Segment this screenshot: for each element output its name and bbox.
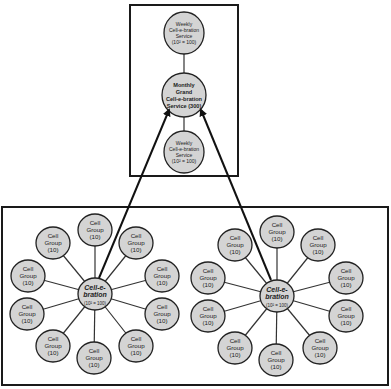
service-label: Cell-e-bration [169, 146, 199, 152]
service-label: Weekly [176, 140, 193, 146]
cell-group-label: Cell [230, 234, 241, 241]
cell-group-label: Cell [157, 303, 168, 310]
cell-group-label: (10) [156, 279, 167, 286]
cell-group-label: Group [19, 272, 37, 279]
cell-group-label: (10) [271, 235, 282, 242]
cell-group-label: Cell [22, 303, 33, 310]
service-node-weekly-top: WeeklyCell-e-brationService(10² = 100) [164, 12, 204, 54]
cell-group-label: (10) [314, 351, 325, 358]
cell-group-node: CellGroup(10) [329, 300, 363, 332]
cell-group-label: (10) [89, 233, 100, 240]
hub-title: bration [83, 291, 107, 298]
nodes-layer: WeeklyCell-e-brationService(10² = 100)Mo… [10, 12, 363, 376]
cell-group-label: Cell [131, 232, 142, 239]
cell-group-node: CellGroup(10) [191, 300, 225, 332]
hub-subtitle: (10² = 100) [266, 303, 289, 308]
cell-group-node: CellGroup(10) [329, 262, 363, 294]
cell-group-label: Cell [23, 265, 34, 272]
cell-group-label: (10) [130, 246, 141, 253]
hub-subtitle: (10² = 100) [84, 301, 107, 306]
cell-group-label: (10) [312, 248, 323, 255]
hub-title: bration [265, 293, 289, 300]
cell-group-label: Group [226, 241, 244, 248]
service-label: Cell-e-bration [166, 96, 203, 102]
cell-group-node: CellGroup(10) [218, 332, 252, 364]
cell-group-node: CellGroup(10) [303, 332, 337, 364]
hub-title: Cell-e- [84, 284, 106, 291]
cell-group-label: Group [311, 344, 329, 351]
cell-group-label: (10) [270, 363, 281, 370]
cell-group-label: Cell [157, 265, 168, 272]
cell-group-label: Cell [203, 267, 214, 274]
cell-celebration-diagram: WeeklyCell-e-brationService(10² = 100)Mo… [0, 0, 391, 389]
cell-group-node: CellGroup(10) [10, 298, 44, 330]
celebration-hub-left: Cell-e-bration(10² = 100) [78, 278, 112, 310]
cell-group-label: Cell [271, 349, 282, 356]
cell-group-label: Group [226, 344, 244, 351]
cell-group-label: (10) [130, 349, 141, 356]
cell-group-label: Cell [89, 347, 100, 354]
cell-group-node: CellGroup(10) [119, 330, 153, 362]
cell-group-label: (10) [88, 361, 99, 368]
service-label: Grand [176, 89, 193, 95]
cell-group-label: Cell [90, 219, 101, 226]
cell-group-node: CellGroup(10) [218, 229, 252, 261]
service-label: (10² = 100) [172, 39, 197, 45]
cell-group-label: Cell [272, 221, 283, 228]
cell-group-label: Group [18, 310, 36, 317]
cell-group-label: Cell [131, 335, 142, 342]
service-label: Weekly [176, 21, 193, 27]
cell-group-label: Cell [48, 335, 59, 342]
cell-group-label: (10) [340, 319, 351, 326]
cell-group-node: CellGroup(10) [260, 216, 294, 248]
cell-group-label: (10) [156, 317, 167, 324]
cell-group-label: Group [127, 342, 145, 349]
service-label: (10² = 100) [172, 158, 197, 164]
cell-group-label: Group [337, 312, 355, 319]
cell-group-label: Group [86, 226, 104, 233]
hub-title: Cell-e- [266, 286, 288, 293]
cell-group-label: Group [267, 356, 285, 363]
service-label: Service [176, 33, 193, 39]
cell-group-label: Group [199, 274, 217, 281]
cell-group-node: CellGroup(10) [36, 330, 70, 362]
cell-group-label: Group [44, 239, 62, 246]
cell-group-node: CellGroup(10) [36, 227, 70, 259]
cell-group-label: (10) [202, 319, 213, 326]
service-label: Service [176, 152, 193, 158]
cell-group-label: Cell [341, 305, 352, 312]
service-label: Cell-e-bration [169, 27, 199, 33]
cell-group-node: CellGroup(10) [11, 260, 45, 292]
cell-group-node: CellGroup(10) [191, 262, 225, 294]
cell-group-label: (10) [47, 349, 58, 356]
cell-group-label: Group [153, 272, 171, 279]
cell-group-label: Group [309, 241, 327, 248]
cell-group-label: (10) [340, 281, 351, 288]
cell-group-label: Group [44, 342, 62, 349]
cell-group-label: Group [199, 312, 217, 319]
cell-group-label: Cell [48, 232, 59, 239]
cell-group-label: Cell [313, 234, 324, 241]
celebration-hub-right: Cell-e-bration(10² = 100) [260, 280, 294, 312]
cell-group-label: (10) [21, 317, 32, 324]
cell-group-label: (10) [47, 246, 58, 253]
cell-group-label: Cell [230, 337, 241, 344]
cell-group-label: (10) [229, 351, 240, 358]
cell-group-label: (10) [22, 279, 33, 286]
cell-group-label: (10) [202, 281, 213, 288]
cell-group-node: CellGroup(10) [119, 227, 153, 259]
cell-group-label: Group [268, 228, 286, 235]
cell-group-node: CellGroup(10) [78, 214, 112, 246]
cell-group-label: (10) [229, 248, 240, 255]
cell-group-label: Group [127, 239, 145, 246]
cell-group-label: Cell [203, 305, 214, 312]
cell-group-label: Group [85, 354, 103, 361]
cell-group-label: Cell [341, 267, 352, 274]
cell-group-label: Group [153, 310, 171, 317]
service-node-weekly-bottom: WeeklyCell-e-brationService(10² = 100) [164, 131, 204, 173]
cell-group-node: CellGroup(10) [259, 344, 293, 376]
cell-group-node: CellGroup(10) [77, 342, 111, 374]
cell-group-label: Cell [315, 337, 326, 344]
cell-group-label: Group [337, 274, 355, 281]
service-label: Service (300) [167, 103, 202, 109]
